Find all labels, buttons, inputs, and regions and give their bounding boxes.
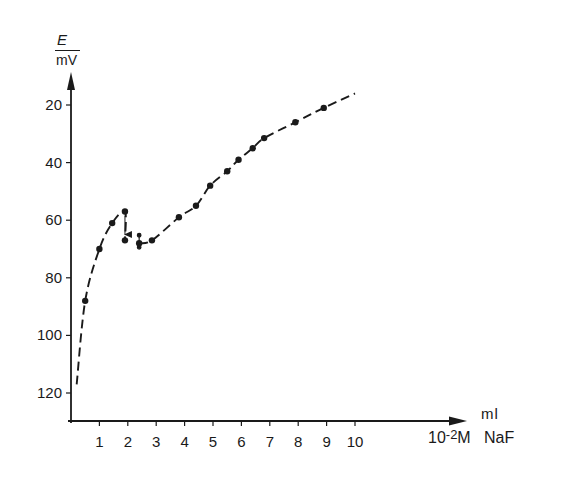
x-tick-label: 4 bbox=[173, 433, 197, 450]
data-point bbox=[292, 119, 298, 125]
x-tick-label: 1 bbox=[87, 433, 111, 450]
x-tick-label: 2 bbox=[116, 433, 140, 450]
x-tick-label: 3 bbox=[144, 433, 168, 450]
y-axis-arrow-icon bbox=[67, 72, 75, 90]
data-point bbox=[82, 298, 88, 304]
y-axis-fraction-bar bbox=[55, 50, 80, 51]
data-point bbox=[176, 214, 182, 220]
x-tick-label: 10 bbox=[343, 433, 367, 450]
data-curve bbox=[77, 93, 355, 384]
data-points bbox=[82, 105, 327, 304]
y-axis-symbol: E bbox=[57, 31, 67, 48]
data-point bbox=[122, 208, 128, 214]
x-tick-label: 8 bbox=[286, 433, 310, 450]
data-point bbox=[122, 237, 128, 243]
x-tick-label: 5 bbox=[201, 433, 225, 450]
data-point bbox=[224, 168, 230, 174]
x-axis-arrow-icon bbox=[449, 417, 467, 426]
y-axis-unit: mV bbox=[56, 52, 77, 68]
y-tick-label: 60 bbox=[22, 211, 62, 228]
x-tick-label: 7 bbox=[258, 433, 282, 450]
data-point bbox=[96, 246, 102, 252]
x-tick-label: 6 bbox=[229, 433, 253, 450]
data-point bbox=[250, 145, 256, 151]
data-point bbox=[235, 157, 241, 163]
data-point bbox=[109, 220, 115, 226]
x-axis-unit: ml bbox=[481, 405, 499, 422]
data-point bbox=[261, 135, 267, 141]
data-point bbox=[149, 237, 155, 243]
titrant-exponent: -2 bbox=[446, 427, 458, 442]
titrant-base: 10 bbox=[428, 429, 446, 446]
titrant-rest: M NaF bbox=[457, 429, 514, 446]
data-point bbox=[207, 182, 213, 188]
y-tick-label: 120 bbox=[22, 384, 62, 401]
y-tick-label: 100 bbox=[22, 326, 62, 343]
x-tick-label: 9 bbox=[315, 433, 339, 450]
x-axis-titrant-label: 10-2M NaF bbox=[428, 429, 514, 447]
data-point bbox=[321, 105, 327, 111]
y-tick-label: 20 bbox=[22, 96, 62, 113]
data-point bbox=[193, 203, 199, 209]
y-tick-label: 40 bbox=[22, 154, 62, 171]
y-tick-label: 80 bbox=[22, 269, 62, 286]
